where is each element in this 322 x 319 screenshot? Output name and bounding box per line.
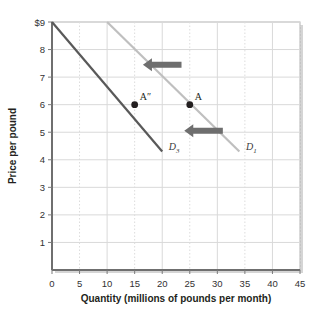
x-tick-label: 40 <box>267 278 278 289</box>
y-tick-label: $9 <box>34 17 45 28</box>
point-marker <box>131 101 138 108</box>
x-tick-label: 25 <box>184 278 195 289</box>
x-tick-label: 5 <box>77 278 82 289</box>
x-tick-label: 30 <box>212 278 223 289</box>
demand-shift-chart: 12345678$9 051015202530354045 D1D3 A″A Q… <box>0 0 322 319</box>
point-label: A <box>195 91 203 102</box>
y-tick-label: 1 <box>40 237 45 248</box>
x-tick-label: 10 <box>102 278 113 289</box>
y-axis-ticks: 12345678$9 <box>34 17 52 248</box>
y-tick-label: 2 <box>40 209 45 220</box>
y-tick-label: 4 <box>40 154 45 165</box>
x-tick-label: 35 <box>240 278 251 289</box>
y-tick-label: 6 <box>40 99 45 110</box>
y-tick-label: 3 <box>40 182 45 193</box>
y-tick-label: 5 <box>40 127 45 138</box>
x-axis-title: Quantity (millions of pounds per month) <box>81 293 272 304</box>
y-tick-label: 7 <box>40 72 45 83</box>
point-marker <box>186 101 193 108</box>
x-tick-label: 45 <box>295 278 306 289</box>
x-tick-label: 15 <box>129 278 140 289</box>
point-label: A″ <box>140 91 151 102</box>
y-tick-label: 8 <box>40 44 45 55</box>
x-tick-label: 0 <box>49 278 54 289</box>
chart-figure: 12345678$9 051015202530354045 D1D3 A″A Q… <box>0 0 322 319</box>
x-tick-label: 20 <box>157 278 168 289</box>
y-axis-title: Price per pound <box>7 108 18 184</box>
